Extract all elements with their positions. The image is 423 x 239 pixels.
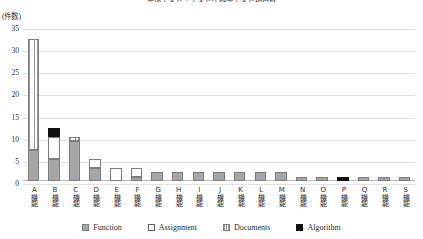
bar-segment-function	[296, 177, 308, 181]
bar-segment-assignment	[131, 168, 143, 177]
bar-chart: 単体テスト・テスト仕様書テスト項目数 (件数) 05101520253035 A…	[0, 0, 423, 239]
legend-item: Algorithm	[296, 223, 340, 232]
legend-label: Documents	[234, 223, 270, 232]
bar-segment-assignment	[48, 137, 60, 159]
chart-title: 単体テスト・テスト仕様書テスト項目数	[0, 0, 423, 2]
bar-stack	[89, 159, 101, 181]
legend-swatch-algorithm-icon	[296, 224, 303, 231]
legend-item: Documents	[223, 223, 270, 232]
bar-stack	[399, 177, 411, 181]
x-axis-tick-label: K機能	[236, 186, 244, 207]
x-axis-tick-label: D機能	[92, 186, 100, 207]
bar-segment-function	[399, 177, 411, 181]
bar-segment-function	[378, 177, 390, 181]
x-axis-tick-label: E機能	[112, 186, 120, 207]
bar-stack	[316, 177, 328, 181]
chart-legend: FunctionAssignmentDocumentsAlgorithm	[0, 220, 423, 234]
x-axis-tick-label: R機能	[381, 186, 389, 207]
y-axis-tick-label: 25	[0, 68, 19, 77]
y-axis-tick-label: 35	[0, 24, 19, 33]
x-axis-labels: A機能B機能C機能D機能E機能F機能G機能H機能I機能J機能K機能L機能M機能N…	[23, 186, 415, 212]
legend-label: Algorithm	[307, 223, 340, 232]
bar-segment-function	[69, 141, 81, 181]
x-axis-tick-label: P機能	[339, 186, 347, 207]
bar-stack	[213, 172, 225, 181]
bar-segment-function	[172, 172, 184, 181]
bar-stack	[378, 177, 390, 181]
y-axis-unit-label: (件数)	[2, 10, 21, 21]
y-axis-tick-label: 10	[0, 135, 19, 144]
bar-segment-documents	[28, 39, 40, 150]
x-axis-tick-label: L機能	[257, 186, 265, 207]
bar-segment-function	[275, 172, 287, 181]
x-axis-tick-label: H機能	[174, 186, 182, 207]
bar-stack	[275, 172, 287, 181]
bar-stack	[255, 172, 267, 181]
x-axis-tick-label: B機能	[50, 186, 58, 207]
bar-segment-assignment	[89, 159, 101, 168]
legend-item: Assignment	[148, 223, 197, 232]
plot-area: 05101520253035	[23, 26, 415, 184]
bar-segment-function	[131, 177, 143, 181]
bar-segment-function	[234, 172, 246, 181]
bar-segment-function	[151, 172, 163, 181]
bar-stack	[48, 128, 60, 181]
bar-stack	[193, 172, 205, 181]
bar-segment-function	[89, 168, 101, 181]
legend-item: Function	[82, 223, 121, 232]
legend-swatch-documents-icon	[223, 224, 230, 231]
x-axis-tick-label: G機能	[154, 186, 162, 207]
x-axis-tick-label: A機能	[30, 186, 38, 207]
y-axis-tick-label: 5	[0, 157, 19, 166]
bar-segment-function	[28, 150, 40, 181]
x-axis-tick-label: F機能	[133, 186, 141, 207]
bar-stack	[358, 177, 370, 181]
bar-stack	[296, 177, 308, 181]
bar-segment-algorithm	[48, 128, 60, 137]
y-axis-tick-label: 15	[0, 113, 19, 122]
legend-label: Assignment	[159, 223, 197, 232]
x-axis-tick-label: J機能	[216, 186, 224, 207]
x-axis-tick-label: Q機能	[360, 186, 368, 207]
bar-stack	[28, 39, 40, 181]
x-axis-tick-label: M機能	[277, 186, 285, 207]
legend-label: Function	[93, 223, 121, 232]
x-axis-tick-label: O機能	[319, 186, 327, 207]
bar-series-container	[23, 26, 415, 181]
x-axis-tick-label: C機能	[71, 186, 79, 207]
bar-segment-function	[193, 172, 205, 181]
bar-stack	[172, 172, 184, 181]
bar-segment-algorithm	[337, 177, 349, 181]
bar-stack	[69, 137, 81, 181]
bar-stack	[151, 172, 163, 181]
gridline	[23, 184, 415, 185]
y-axis-tick-label: 30	[0, 46, 19, 55]
bar-segment-function	[255, 172, 267, 181]
bar-segment-function	[213, 172, 225, 181]
bar-stack	[110, 168, 122, 181]
y-axis-tick-label: 0	[0, 179, 19, 188]
legend-swatch-function-icon	[82, 224, 89, 231]
bar-segment-function	[48, 159, 60, 181]
bar-stack	[337, 177, 349, 181]
bar-segment-function	[358, 177, 370, 181]
x-axis-tick-label: N機能	[298, 186, 306, 207]
bar-segment-function	[316, 177, 328, 181]
bar-stack	[234, 172, 246, 181]
legend-swatch-assignment-icon	[148, 224, 155, 231]
x-axis-tick-label: S機能	[401, 186, 409, 207]
bar-stack	[131, 168, 143, 181]
y-axis-tick-label: 20	[0, 90, 19, 99]
x-axis-tick-label: I機能	[195, 186, 203, 207]
bar-segment-assignment	[110, 168, 122, 181]
